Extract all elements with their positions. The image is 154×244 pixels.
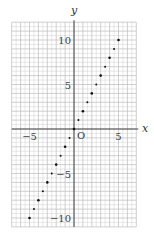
data-point — [60, 155, 62, 157]
data-point — [37, 199, 40, 202]
data-point — [91, 92, 94, 95]
data-point — [42, 190, 44, 192]
data-point — [46, 181, 49, 184]
data-point — [108, 57, 111, 60]
data-point — [69, 137, 71, 139]
data-point — [104, 66, 106, 68]
data-point — [33, 208, 35, 210]
data-point — [28, 217, 31, 220]
data-point — [55, 163, 58, 166]
y-tick-label: 5 — [65, 80, 71, 91]
scatter-chart: x y O −55105−5−10 — [0, 0, 154, 244]
data-point — [73, 128, 76, 131]
x-tick-label: 5 — [115, 131, 121, 142]
data-point — [117, 39, 120, 42]
y-tick-label: −5 — [56, 169, 71, 180]
x-tick-label: −5 — [22, 131, 37, 142]
y-axis-label: y — [70, 4, 78, 17]
data-point — [82, 110, 85, 113]
data-point — [99, 74, 102, 77]
origin-label: O — [77, 130, 85, 141]
data-point — [86, 101, 88, 103]
data-point — [95, 84, 97, 86]
data-point — [51, 173, 53, 175]
x-axis-label: x — [142, 122, 149, 135]
data-point — [113, 48, 115, 50]
y-tick-label: −10 — [50, 213, 71, 224]
y-tick-label: 10 — [58, 35, 71, 46]
data-point — [64, 146, 67, 149]
data-point — [77, 119, 79, 121]
